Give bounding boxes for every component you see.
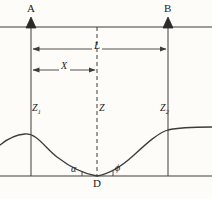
label-offset-X: X	[61, 61, 67, 71]
label-depth-z2: Z2	[160, 103, 169, 113]
label-point-d: D	[93, 178, 101, 189]
label-separation-L: L	[94, 40, 100, 51]
interface-curve	[0, 127, 212, 176]
figure-container: A B L X Z1 Z Z2 α ϕ D	[0, 0, 212, 199]
label-angle-phi: ϕ	[115, 163, 120, 173]
label-depth-z-center: Z	[99, 103, 105, 113]
label-station-b: B	[164, 3, 171, 14]
triangle-marker-b-icon	[163, 17, 173, 28]
label-angle-alpha: α	[71, 164, 76, 174]
label-depth-z1-subscript: 1	[38, 108, 41, 115]
label-depth-z2-base: Z	[160, 102, 166, 113]
label-depth-z1: Z1	[32, 103, 41, 113]
triangle-marker-a-icon	[26, 17, 36, 28]
diagram-canvas	[0, 0, 212, 199]
label-depth-z2-subscript: 2	[166, 108, 169, 115]
label-depth-z1-base: Z	[32, 102, 38, 113]
label-station-a: A	[27, 3, 35, 14]
